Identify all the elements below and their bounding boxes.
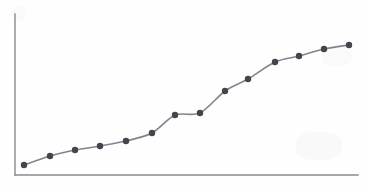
chart-plot	[0, 0, 368, 191]
data-point-marker	[97, 143, 103, 149]
data-point-marker	[245, 76, 251, 82]
data-point-marker	[72, 147, 78, 153]
data-point-marker	[296, 53, 302, 59]
data-point-marker	[321, 46, 327, 52]
data-point-marker	[172, 112, 178, 118]
data-point-marker	[197, 110, 203, 116]
data-point-marker	[123, 138, 129, 144]
line-chart-figure	[0, 0, 368, 191]
axes-group	[15, 14, 358, 175]
data-point-marker	[346, 42, 352, 48]
series-1-markers	[21, 42, 352, 168]
data-point-marker	[149, 130, 155, 136]
series-group	[21, 42, 352, 168]
data-point-marker	[21, 162, 27, 168]
data-point-marker	[47, 153, 53, 159]
series-1-line	[24, 45, 349, 165]
data-point-marker	[272, 59, 278, 65]
data-point-marker	[222, 88, 228, 94]
